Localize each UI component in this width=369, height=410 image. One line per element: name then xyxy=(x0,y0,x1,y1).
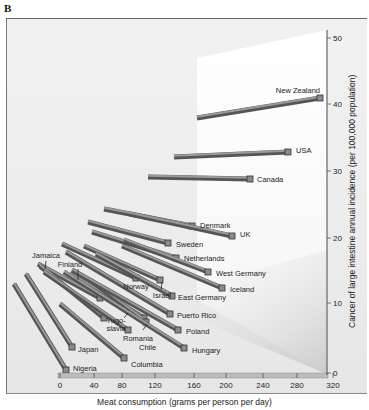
bar-end-marker xyxy=(205,269,211,275)
label-iceland: Iceland xyxy=(230,285,254,294)
x-tick-label: 120 xyxy=(148,381,162,390)
label-puerto-rico: Puerto Rico xyxy=(177,311,216,320)
label-west-germany: West Germany xyxy=(216,269,266,278)
label-canada: Canada xyxy=(257,175,284,184)
label-israel: Israel xyxy=(153,291,172,300)
label-yugoslavia-2: slavia xyxy=(106,324,126,333)
label-east-germany: East Germany xyxy=(178,293,226,302)
bar-end-marker xyxy=(63,367,69,373)
bar-end-marker xyxy=(247,176,253,182)
label-romania: Romania xyxy=(123,334,154,343)
label-jamaica: Jamaica xyxy=(32,251,61,260)
bar-end-marker xyxy=(229,233,235,239)
y-tick-label: 0 xyxy=(333,369,338,378)
bar-end-marker xyxy=(181,345,187,351)
x-tick-label: 320 xyxy=(326,381,340,390)
bar-end-marker xyxy=(69,344,75,350)
y-tick-label: 30 xyxy=(333,167,342,176)
y-tick-label: 40 xyxy=(333,100,342,109)
x-tick-label: 160 xyxy=(187,381,201,390)
y-axis-label: Cancer of large intestine annual inciden… xyxy=(347,88,357,328)
y-tick-label: 50 xyxy=(333,34,342,43)
label-hungary: Hungary xyxy=(192,346,221,355)
bar-end-marker xyxy=(219,285,225,291)
bar-end-marker xyxy=(167,311,173,317)
x-tick-label: 40 xyxy=(90,381,99,390)
label-denmark: Denmark xyxy=(200,221,231,230)
label-new-zealand: New Zealand xyxy=(276,86,320,95)
bar-end-marker xyxy=(317,95,323,101)
label-poland: Poland xyxy=(186,327,209,336)
label-finland: Finland xyxy=(58,260,83,269)
label-netherlands: Netherlands xyxy=(184,254,225,263)
x-tick-label: 200 xyxy=(219,381,233,390)
x-tick-label: 240 xyxy=(256,381,270,390)
label-norway: Norway xyxy=(123,282,149,291)
x-axis-label: Meat consumption (grams per person per d… xyxy=(0,397,369,407)
x-tick-label: 80 xyxy=(118,381,127,390)
label-japan: Japan xyxy=(78,345,98,354)
y-tick-label: 20 xyxy=(333,234,342,243)
bar-end-marker xyxy=(175,327,181,333)
label-nigeria: Nigeria xyxy=(73,364,98,373)
x-tick-label: 0 xyxy=(58,381,63,390)
x-axis-bar xyxy=(58,373,328,378)
label-sweden: Sweden xyxy=(176,240,203,249)
y-tick-label: 10 xyxy=(333,299,342,308)
x-tick-label: 280 xyxy=(290,381,304,390)
bar-end-marker xyxy=(285,149,291,155)
bar-end-marker xyxy=(165,240,171,246)
chart-plot: NigeriaJapanColumbiaChileHungaryPolandRo… xyxy=(0,0,369,410)
bar-end-marker xyxy=(125,327,131,333)
label-usa: USA xyxy=(296,146,311,155)
bar-end-marker xyxy=(121,355,127,361)
label-columbia: Columbia xyxy=(131,360,164,369)
label-uk: UK xyxy=(240,230,250,239)
label-chile: Chile xyxy=(139,343,156,352)
